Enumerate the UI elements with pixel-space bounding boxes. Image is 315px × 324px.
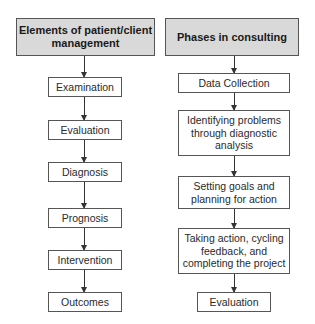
step-label: Evaluation <box>209 296 258 309</box>
arrow-icon <box>234 209 235 228</box>
right-step-data-collection: Data Collection <box>178 73 290 93</box>
arrow-icon <box>84 228 85 250</box>
left-step-intervention: Intervention <box>48 250 122 270</box>
arrow-icon <box>234 156 235 176</box>
right-header-label: Phases in consulting <box>177 31 287 44</box>
left-step-evaluation: Evaluation <box>48 120 122 140</box>
arrow-icon <box>84 182 85 208</box>
step-label: Intervention <box>58 254 113 267</box>
arrow-icon <box>84 140 85 162</box>
step-label: Outcomes <box>61 296 109 309</box>
left-step-outcomes: Outcomes <box>48 292 122 312</box>
step-label: Data Collection <box>198 77 269 90</box>
left-step-diagnosis: Diagnosis <box>48 162 122 182</box>
step-label: Diagnosis <box>62 166 108 179</box>
left-step-examination: Examination <box>48 77 122 97</box>
right-step-taking-action: Taking action, cycling feedback, and com… <box>178 228 290 274</box>
arrow-icon <box>84 270 85 292</box>
arrow-icon <box>234 274 235 292</box>
arrow-icon <box>84 56 85 77</box>
left-column-header: Elements of patient/client management <box>16 18 155 56</box>
arrow-icon <box>84 97 85 120</box>
step-label: Taking action, cycling feedback, and com… <box>179 232 289 270</box>
right-step-evaluation: Evaluation <box>197 292 271 312</box>
right-step-setting-goals: Setting goals and planning for action <box>178 176 290 209</box>
right-column-header: Phases in consulting <box>165 18 299 56</box>
right-step-identifying-problems: Identifying problems through diagnostic … <box>178 110 290 156</box>
arrow-icon <box>234 56 235 73</box>
step-label: Identifying problems through diagnostic … <box>179 114 289 152</box>
step-label: Setting goals and planning for action <box>179 180 289 205</box>
step-label: Examination <box>56 81 114 94</box>
left-step-prognosis: Prognosis <box>48 208 122 228</box>
arrow-icon <box>234 93 235 110</box>
left-header-label: Elements of patient/client management <box>17 24 154 50</box>
step-label: Evaluation <box>60 124 109 137</box>
step-label: Prognosis <box>62 212 109 225</box>
